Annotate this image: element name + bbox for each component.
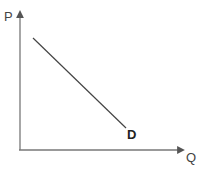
- demand-curve-label: D: [127, 128, 136, 141]
- x-axis-label: Q: [186, 151, 196, 164]
- demand-curve: [33, 38, 126, 128]
- demand-chart: [0, 0, 201, 176]
- y-axis-label: P: [4, 10, 13, 23]
